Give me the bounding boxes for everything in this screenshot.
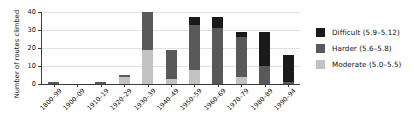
bar-segment [189,17,200,24]
legend-label: Harder (5.6–5.8) [332,44,392,53]
x-tick-mark [77,84,78,87]
x-tick-mark [241,84,242,87]
bar-segment [283,55,294,82]
bar-segment [212,17,223,28]
bar-segment [259,32,270,66]
y-tick-label: 0 [32,80,36,88]
bar-segment [236,37,247,77]
x-tick-mark [148,84,149,87]
legend-item[interactable]: Harder (5.6–5.8) [316,40,412,56]
x-tick-mark [194,84,195,87]
bar-segment [142,50,153,84]
x-tick-mark [54,84,55,87]
x-tick-mark [265,84,266,87]
x-tick-mark [218,84,219,87]
chart-legend: Difficult (5.9–5.12)Harder (5.6–5.8)Mode… [316,24,412,72]
bar-segment [119,77,130,84]
bar-stack[interactable] [142,12,153,84]
legend-item[interactable]: Difficult (5.9–5.12) [316,24,412,40]
legend-swatch [316,44,325,53]
x-tick-mark [171,84,172,87]
y-axis-title: Number of routes climbed [13,4,21,104]
bar-segment [259,66,270,84]
bar-segment [142,12,153,50]
legend-label: Difficult (5.9–5.12) [332,28,400,37]
bar-stack[interactable] [259,32,270,84]
bar-segment [189,70,200,84]
bar-stack[interactable] [189,17,200,84]
bar-series-group [42,12,300,84]
legend-item[interactable]: Moderate (5.0–5.5) [316,56,412,72]
x-tick-mark [288,84,289,87]
plot-area: 010203040 1800–991900–091910–191920–2919… [42,12,300,84]
bar-stack[interactable] [236,32,247,84]
bar-stack[interactable] [119,75,130,84]
y-tick-label: 20 [28,44,36,52]
y-tick-label: 40 [28,8,36,16]
bar-stack[interactable] [283,55,294,84]
bar-segment [166,50,177,79]
chart-container: Number of routes climbed 010203040 1800–… [0,0,414,121]
x-tick-mark [124,84,125,87]
y-tick-label: 30 [28,26,36,34]
legend-label: Moderate (5.0–5.5) [332,60,401,69]
bar-segment [189,25,200,70]
x-tick-mark [101,84,102,87]
bar-stack[interactable] [166,50,177,84]
legend-swatch [316,28,325,37]
bar-segment [236,77,247,84]
legend-swatch [316,60,325,69]
bar-stack[interactable] [212,17,223,84]
y-tick-label: 10 [28,62,36,70]
bar-segment [212,28,223,84]
